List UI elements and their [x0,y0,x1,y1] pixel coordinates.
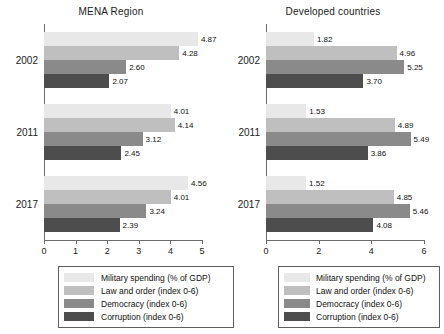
legend-item: Military spending (% of GDP) [284,271,433,284]
bar [266,132,411,146]
bar [44,204,146,218]
chart-panels: MENA Region 0123454.874.282.602.0720024.… [0,0,444,262]
x-axis-tick [76,240,77,244]
bar [44,218,120,232]
bar [266,146,368,160]
bar [266,104,306,118]
bar-row: 2.60 [44,60,202,74]
x-axis-tick-label: 2 [105,246,110,256]
bar-value-label: 2.07 [109,77,128,86]
bar-value-label: 2.45 [121,149,140,158]
bar [266,218,373,232]
bar [266,46,397,60]
x-axis-tick-label: 4 [168,246,173,256]
bar-value-label: 4.14 [175,121,194,130]
bar-row: 3.86 [266,146,424,160]
bar-row: 1.53 [266,104,424,118]
legend-item: Corruption (index 0-6) [284,310,433,323]
bar [266,204,410,218]
bar [44,104,171,118]
legend-item: Corruption (index 0-6) [64,310,227,323]
category-label: 2011 [224,127,260,138]
x-axis-tick-label: 3 [136,246,141,256]
bar-row: 4.01 [44,190,202,204]
legend-label: Corruption (index 0-6) [101,312,184,322]
x-axis-tick-label: 0 [263,246,268,256]
bar-group: 4.564.013.242.39 [44,176,202,232]
bar [266,60,404,74]
x-axis-tick [107,240,108,244]
x-axis-tick [371,240,372,244]
bar-value-label: 4.08 [373,221,392,230]
bar-value-label: 4.56 [188,179,207,188]
x-axis-tick-label: 2 [316,246,321,256]
legend-item: Law and order (index 0-6) [284,284,433,297]
bar-value-label: 3.24 [146,207,165,216]
bar [44,32,198,46]
bar-row: 3.24 [44,204,202,218]
x-axis-tick [139,240,140,244]
legend-swatch [284,299,310,308]
bar-group: 1.524.855.464.08 [266,176,424,232]
bar-value-label: 3.12 [143,135,162,144]
legend-item: Law and order (index 0-6) [64,284,227,297]
bar-value-label: 5.49 [411,135,430,144]
bar-row: 4.96 [266,46,424,60]
bar [266,74,363,88]
bar-value-label: 5.25 [404,63,423,72]
bar-row: 3.70 [266,74,424,88]
bar-row: 4.85 [266,190,424,204]
legend-label: Military spending (% of GDP) [316,273,426,283]
legend-item: Military spending (% of GDP) [64,271,227,284]
bar [44,132,143,146]
bar [44,60,126,74]
bar-row: 1.52 [266,176,424,190]
category-label: 2002 [2,55,38,66]
chart-panel-developed: Developed countries 02461.824.965.253.70… [222,0,444,262]
category-label: 2017 [2,199,38,210]
bar-row: 1.82 [266,32,424,46]
x-axis-tick [319,240,320,244]
bar-row: 2.45 [44,146,202,160]
bar-value-label: 2.39 [120,221,139,230]
x-axis-line [266,240,424,241]
bar-value-label: 4.89 [395,121,414,130]
bar-row: 5.25 [266,60,424,74]
bar-row: 4.08 [266,218,424,232]
legend-swatch [284,273,310,282]
bar-row: 4.14 [44,118,202,132]
bar-group: 4.014.143.122.45 [44,104,202,160]
x-axis-tick [44,240,45,244]
bar [44,118,175,132]
legend-label: Corruption (index 0-6) [316,312,399,322]
bar-row: 5.46 [266,204,424,218]
bar-row: 4.01 [44,104,202,118]
bar [44,146,121,160]
bar-value-label: 4.96 [397,49,416,58]
legend-developed: Military spending (% of GDP)Law and orde… [278,266,440,328]
bar-group: 1.534.895.493.86 [266,104,424,160]
bar-value-label: 4.01 [171,193,190,202]
chart-panel-mena: MENA Region 0123454.874.282.602.0720024.… [0,0,222,262]
bar-group: 1.824.965.253.70 [266,32,424,88]
panel-title: Developed countries [222,6,444,17]
legend-swatch [284,286,310,295]
bar-value-label: 1.52 [306,179,325,188]
legends: Military spending (% of GDP)Law and orde… [0,262,444,334]
bar-value-label: 1.82 [314,35,333,44]
x-axis-tick-label: 0 [41,246,46,256]
bar [44,74,109,88]
bar [44,176,188,190]
bar-value-label: 4.28 [179,49,198,58]
plot-area: 02461.824.965.253.7020021.534.895.493.86… [266,24,424,240]
bar-row: 5.49 [266,132,424,146]
x-axis-line [44,240,202,241]
bar-value-label: 2.60 [126,63,145,72]
bar [266,176,306,190]
legend-swatch [64,299,94,308]
x-axis-tick [424,240,425,244]
legend-swatch [64,286,94,295]
legend-item: Democracy (index 0-6) [64,297,227,310]
legend-swatch [64,273,94,282]
legend-swatch [64,312,94,321]
